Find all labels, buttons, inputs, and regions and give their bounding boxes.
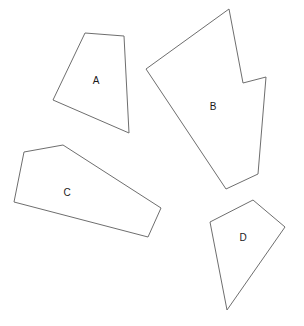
polygon-c[interactable]: [14, 145, 161, 237]
shape-group-a[interactable]: [53, 33, 129, 133]
polygon-label-c: C: [63, 188, 70, 198]
polygon-diagram-svg: [0, 0, 304, 326]
shape-group-c[interactable]: [14, 145, 161, 237]
shape-group-b[interactable]: [146, 9, 266, 189]
shape-group-d[interactable]: [210, 200, 285, 310]
polygon-a[interactable]: [53, 33, 129, 133]
polygon-label-b: B: [210, 102, 217, 112]
polygon-b[interactable]: [146, 9, 266, 189]
polygon-label-d: D: [239, 233, 246, 243]
polygon-label-a: A: [93, 76, 100, 86]
diagram-canvas: A B C D: [0, 0, 304, 326]
polygon-d[interactable]: [210, 200, 285, 310]
